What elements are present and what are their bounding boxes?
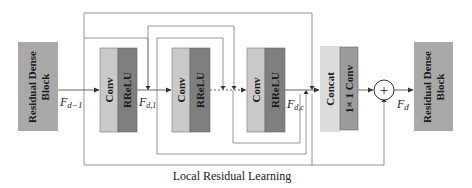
rrelu2-label: RReLU [194, 72, 206, 108]
conv1x1-label: 1× 1 Conv [343, 65, 355, 113]
f-in-label: Fd−1 [59, 95, 82, 110]
f-d-label: Fd [396, 97, 409, 112]
concat-label: Concat [324, 72, 336, 106]
caption: Local Residual Learning [173, 169, 292, 183]
f-1-label: Fd,1 [138, 95, 156, 110]
conv3-label: Conv [250, 77, 262, 103]
rdb-input-label-2: Block [39, 73, 51, 101]
rrelu3-label: RReLU [269, 72, 281, 108]
rdb-output-label-1: Residual Dense [421, 51, 433, 123]
rdb-input-block [18, 42, 58, 131]
rdb-output-label-2: Block [434, 73, 446, 101]
conv1-label: Conv [103, 77, 115, 103]
rrelu1-label: RReLU [121, 72, 133, 108]
conv2-label: Conv [175, 77, 187, 103]
rdb-diagram: Residual Dense Block Conv RReLU Conv RRe… [0, 0, 472, 188]
add-symbol: + [380, 82, 388, 98]
f-c-label: Fd,c [286, 97, 304, 112]
rdb-input-label-1: Residual Dense [26, 51, 38, 123]
